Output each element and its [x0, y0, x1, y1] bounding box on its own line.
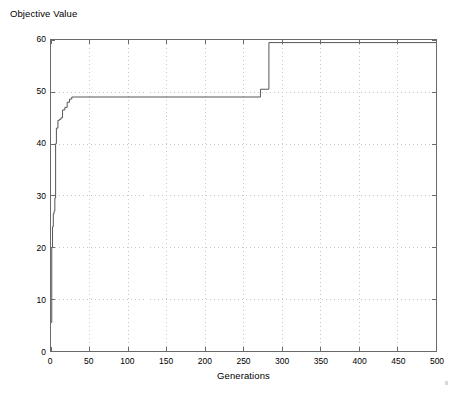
x-tick-label: 500 — [430, 357, 444, 366]
x-tick-label: 50 — [84, 357, 93, 366]
y-axis-title: Objective Value — [10, 8, 77, 20]
x-tick-label: 200 — [198, 357, 212, 366]
x-tick-label: 300 — [275, 357, 289, 366]
chart-figure: Objective Value 010203040506005010015020… — [0, 0, 460, 393]
y-tick-label: 20 — [20, 243, 46, 252]
plot-area — [50, 39, 437, 352]
x-tick-label: 100 — [120, 357, 134, 366]
x-axis-title: Generations — [50, 370, 437, 381]
x-tick-label: 250 — [236, 357, 250, 366]
x-tick-label: 150 — [159, 357, 173, 366]
corner-speck-artifact — [445, 381, 448, 385]
x-tick-label: 450 — [391, 357, 405, 366]
y-tick-label: 0 — [20, 348, 46, 357]
y-tick-label: 10 — [20, 295, 46, 304]
y-tick-label: 60 — [20, 35, 46, 44]
x-tick-label: 0 — [48, 357, 53, 366]
tick-marks — [51, 40, 436, 351]
y-tick-label: 30 — [20, 191, 46, 200]
y-tick-label: 50 — [20, 87, 46, 96]
x-tick-label: 400 — [353, 357, 367, 366]
y-tick-label: 40 — [20, 139, 46, 148]
x-tick-label: 350 — [314, 357, 328, 366]
